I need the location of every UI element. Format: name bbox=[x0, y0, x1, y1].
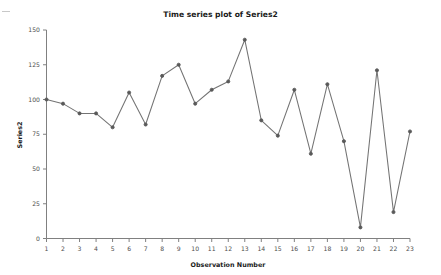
y-tick-label: 150 bbox=[28, 26, 40, 33]
y-tick-label: 75 bbox=[32, 130, 40, 137]
x-tick-label: 15 bbox=[274, 245, 282, 252]
y-tick-label: 25 bbox=[32, 200, 40, 207]
x-tick-label: 12 bbox=[224, 245, 232, 252]
x-axis-label: Observation Number bbox=[191, 261, 267, 269]
x-tick-label: 2 bbox=[61, 245, 65, 252]
data-point-marker bbox=[326, 83, 329, 86]
x-tick-label: 17 bbox=[307, 245, 315, 252]
y-tick-label: 0 bbox=[36, 235, 40, 242]
x-tick-label: 7 bbox=[144, 245, 148, 252]
data-point-marker bbox=[293, 88, 296, 91]
y-axis-label: Series2 bbox=[16, 122, 24, 149]
data-point-marker bbox=[78, 112, 81, 115]
time-series-chart: Time series plot of Series2 025507510012… bbox=[0, 0, 441, 275]
data-point-marker bbox=[260, 119, 263, 122]
x-tick-label: 11 bbox=[208, 245, 216, 252]
y-tick-label: 125 bbox=[28, 61, 40, 68]
data-point-marker bbox=[111, 126, 114, 129]
data-point-marker bbox=[61, 102, 64, 105]
x-tick-label: 5 bbox=[111, 245, 115, 252]
y-tick-label: 50 bbox=[32, 165, 40, 172]
x-tick-label: 16 bbox=[290, 245, 298, 252]
data-point-marker bbox=[177, 63, 180, 66]
x-tick-label: 22 bbox=[390, 245, 398, 252]
x-tick-label: 18 bbox=[324, 245, 332, 252]
data-point-marker bbox=[128, 91, 131, 94]
x-tick-label: 8 bbox=[160, 245, 164, 252]
data-point-marker bbox=[227, 80, 230, 83]
data-point-marker bbox=[194, 102, 197, 105]
chart-title: Time series plot of Series2 bbox=[163, 10, 277, 19]
data-point-marker bbox=[276, 134, 279, 137]
x-tick-label: 19 bbox=[340, 245, 348, 252]
chart-canvas: Time series plot of Series2 025507510012… bbox=[0, 0, 441, 275]
x-tick-label: 21 bbox=[373, 245, 381, 252]
data-point-marker bbox=[375, 69, 378, 72]
data-point-marker bbox=[243, 38, 246, 41]
data-point-marker bbox=[161, 74, 164, 77]
data-point-marker bbox=[210, 88, 213, 91]
x-tick-label: 9 bbox=[177, 245, 181, 252]
y-tick-label: 100 bbox=[28, 96, 40, 103]
x-tick-label: 6 bbox=[127, 245, 131, 252]
x-tick-label: 20 bbox=[357, 245, 365, 252]
x-tick-label: 13 bbox=[241, 245, 249, 252]
data-point-marker bbox=[144, 123, 147, 126]
x-tick-label: 4 bbox=[94, 245, 98, 252]
x-tick-label: 10 bbox=[191, 245, 199, 252]
data-point-marker bbox=[408, 130, 411, 133]
data-point-marker bbox=[359, 226, 362, 229]
x-tick-label: 23 bbox=[406, 245, 414, 252]
data-point-marker bbox=[342, 140, 345, 143]
x-tick-label: 3 bbox=[78, 245, 82, 252]
data-point-marker bbox=[392, 211, 395, 214]
x-tick-label: 1 bbox=[45, 245, 49, 252]
data-point-marker bbox=[95, 112, 98, 115]
chart-background bbox=[0, 0, 441, 275]
data-point-marker bbox=[45, 98, 48, 101]
x-tick-label: 14 bbox=[257, 245, 265, 252]
data-point-marker bbox=[309, 152, 312, 155]
